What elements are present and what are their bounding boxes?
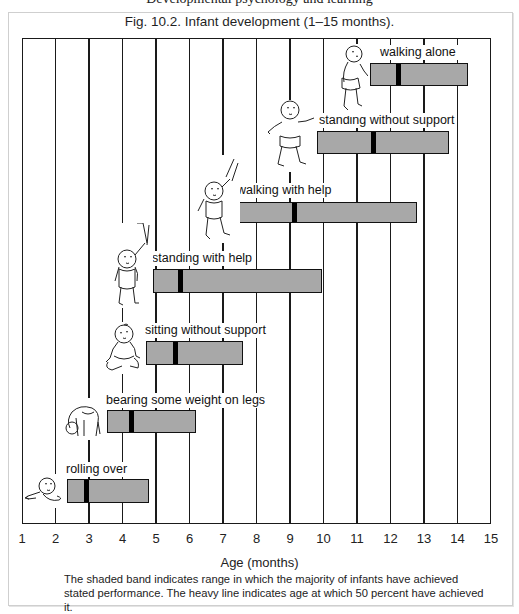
cut-off-header-text: Developmental psychology and learning bbox=[0, 0, 519, 7]
median-marker bbox=[173, 342, 178, 364]
baby-sitting-icon bbox=[100, 322, 144, 374]
x-tick-label: 11 bbox=[347, 531, 367, 546]
median-marker bbox=[178, 270, 183, 292]
milestone-range-bar bbox=[317, 131, 449, 154]
x-tick-label: 14 bbox=[448, 531, 468, 546]
milestone-range-bar bbox=[153, 269, 322, 293]
x-tick-label: 12 bbox=[381, 531, 401, 546]
median-marker bbox=[292, 203, 297, 222]
x-axis-label: Age (months) bbox=[0, 555, 519, 570]
baby-walking-icon bbox=[338, 44, 368, 116]
milestone-label: standing with help bbox=[150, 251, 254, 266]
x-tick-label: 9 bbox=[280, 531, 300, 546]
baby-standing-icon bbox=[266, 100, 316, 172]
x-tick-label: 10 bbox=[314, 531, 334, 546]
x-tick-label: 15 bbox=[481, 531, 501, 546]
milestone-range-bar bbox=[370, 63, 467, 86]
milestone-label: walking alone bbox=[378, 45, 458, 60]
x-tick-label: 7 bbox=[213, 531, 233, 546]
x-tick-label: 5 bbox=[146, 531, 166, 546]
x-tick-label: 6 bbox=[180, 531, 200, 546]
median-marker bbox=[129, 411, 134, 432]
x-tick-label: 8 bbox=[247, 531, 267, 546]
baby-lying-icon bbox=[23, 474, 65, 508]
milestone-range-bar bbox=[236, 202, 417, 223]
figure-caption: The shaded band indicates range in which… bbox=[64, 572, 484, 614]
x-tick-label: 13 bbox=[414, 531, 434, 546]
baby-walking-help-icon bbox=[196, 155, 240, 243]
x-tick-label: 3 bbox=[79, 531, 99, 546]
milestone-label: rolling over bbox=[64, 462, 129, 477]
median-marker bbox=[84, 480, 89, 502]
milestone-label: walking with help bbox=[235, 183, 334, 198]
x-tick-label: 4 bbox=[113, 531, 133, 546]
x-tick-label: 2 bbox=[46, 531, 66, 546]
milestone-label: sitting without support bbox=[143, 323, 268, 338]
milestone-label: bearing some weight on legs bbox=[104, 393, 267, 408]
milestone-range-bar bbox=[107, 410, 196, 433]
milestone-range-bar bbox=[146, 341, 243, 365]
x-tick-label: 1 bbox=[12, 531, 32, 546]
baby-standing-help-icon bbox=[113, 223, 153, 308]
median-marker bbox=[396, 64, 401, 85]
milestone-range-bar bbox=[67, 479, 149, 503]
figure-title: Fig. 10.2. Infant development (1–15 mont… bbox=[0, 14, 519, 29]
baby-crawling-icon bbox=[62, 398, 104, 440]
median-marker bbox=[371, 132, 376, 153]
